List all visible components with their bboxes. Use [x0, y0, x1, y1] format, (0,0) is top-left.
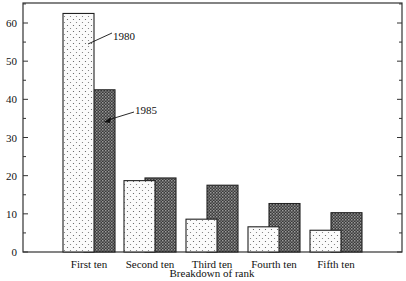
y-tick-label: 30: [6, 132, 18, 144]
bar-1980-first-ten: [63, 13, 94, 252]
x-category-label: First ten: [71, 258, 108, 270]
x-category-label: Fifth ten: [317, 258, 355, 270]
bar-1980-fifth-ten: [310, 230, 341, 252]
annotation-1980: 1980: [113, 30, 136, 42]
bar-1980-fourth-ten: [248, 227, 279, 252]
x-category-label: Second ten: [126, 258, 175, 270]
y-tick-label: 40: [6, 93, 18, 105]
y-tick-label: 50: [6, 55, 18, 67]
x-category-label: Fourth ten: [251, 258, 297, 270]
bar-1980-third-ten: [186, 219, 217, 252]
bars: [63, 13, 362, 252]
annotation-1985: 1985: [135, 104, 158, 116]
y-tick-label: 0: [12, 246, 18, 258]
y-tick-label: 20: [6, 170, 18, 182]
y-tick-label: 10: [6, 208, 18, 220]
x-axis-title: Breakdown of rank: [170, 267, 255, 279]
bar-1980-second-ten: [124, 181, 155, 252]
y-tick-label: 60: [6, 17, 18, 29]
bar-chart: 0102030405060 First tenSecond tenThird t…: [0, 0, 406, 281]
